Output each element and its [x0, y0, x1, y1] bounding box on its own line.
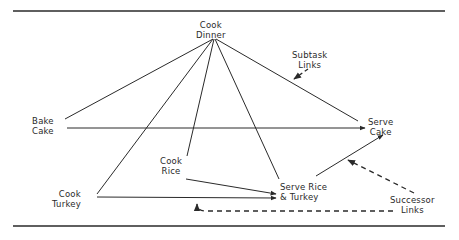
edge-cook-rice-serve-rice-turkey — [186, 179, 276, 194]
node-cook-dinner: Cook Dinner — [196, 20, 226, 40]
edge-dinner-cook-rice — [187, 39, 214, 156]
successor-pointer-upper-icon — [348, 160, 414, 193]
edge-cook-turkey-serve-rice-turkey — [97, 197, 276, 198]
edge-dinner-serve-rice-turkey — [215, 39, 279, 179]
edge-dinner-bake-cake — [65, 39, 213, 119]
annotation-successor-links: Successor Links — [390, 195, 435, 215]
successor-links — [67, 128, 383, 198]
node-serve-rice-turkey: Serve Rice & Turkey — [280, 182, 327, 202]
successor-pointer-lower-icon — [197, 204, 393, 211]
node-serve-cake: Serve Cake — [368, 117, 393, 137]
subtask-pointer-icon — [294, 69, 308, 79]
edge-dinner-serve-cake — [216, 39, 358, 121]
edge-dinner-cook-turkey — [97, 39, 213, 194]
node-cook-turkey: Cook Turkey — [52, 189, 81, 209]
node-bake-cake: Bake Cake — [26, 116, 54, 136]
node-cook-rice: Cook Rice — [160, 156, 182, 176]
edge-serve-rice-turkey-serve-cake — [316, 135, 383, 176]
annotation-subtask-links: Subtask Links — [292, 50, 327, 70]
